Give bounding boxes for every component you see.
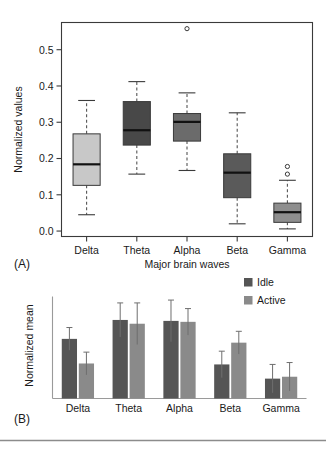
panel-a-xtick-label: Alpha bbox=[174, 244, 201, 256]
panel-a-ytick-label: 0.4 bbox=[39, 80, 54, 92]
panel-b-xtick-label: Theta bbox=[115, 402, 142, 414]
panel-a-xtick-label: Theta bbox=[123, 244, 150, 256]
figure-svg: 0.00.10.20.30.40.5DeltaThetaAlphaBetaGam… bbox=[0, 0, 326, 449]
panel-a-ytick-label: 0.3 bbox=[39, 116, 54, 128]
box-iqr bbox=[73, 134, 100, 186]
legend-label-text: Active bbox=[257, 294, 286, 306]
panel-a-ytick-label: 0.0 bbox=[39, 225, 54, 237]
legend-swatch bbox=[244, 278, 253, 287]
box-iqr bbox=[123, 102, 150, 146]
panel-a-xtick-label: Beta bbox=[226, 244, 248, 256]
panel-a-ytick-label: 0.2 bbox=[39, 152, 54, 164]
panel-b-ylabel: Normalized mean bbox=[23, 304, 35, 386]
box-iqr bbox=[224, 154, 251, 198]
figure-container: 0.00.10.20.30.40.5DeltaThetaAlphaBetaGam… bbox=[0, 0, 326, 449]
panel-b-xtick-label: Delta bbox=[66, 402, 91, 414]
panel-a-xlabel: Major brain waves bbox=[144, 258, 229, 270]
box-iqr bbox=[173, 114, 200, 142]
panel-a-ytick-label: 0.1 bbox=[39, 189, 54, 201]
legend-label-text: Idle bbox=[257, 276, 274, 288]
panel-b-label: (B) bbox=[14, 412, 30, 426]
bar-alpha-active bbox=[180, 309, 195, 399]
panel-b-xtick-label: Gamma bbox=[262, 402, 300, 414]
legend-swatch bbox=[244, 296, 253, 305]
panel-a-ylabel: Normalized values bbox=[12, 86, 24, 172]
panel-a-ytick-label: 0.5 bbox=[39, 44, 54, 56]
panel-b-xtick-label: Beta bbox=[219, 402, 241, 414]
panel-a-label: (A) bbox=[14, 257, 30, 271]
panel-b-xtick-label: Alpha bbox=[166, 402, 193, 414]
panel-a-xtick-label: Delta bbox=[74, 244, 99, 256]
panel-a-xtick-label: Gamma bbox=[269, 244, 307, 256]
